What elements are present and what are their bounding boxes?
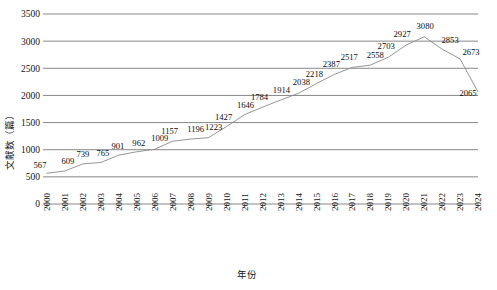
data-point-label: 1196 <box>187 124 205 134</box>
data-point-label: 1914 <box>273 85 291 95</box>
y-axis-tick-label: 2500 <box>21 64 40 74</box>
data-point-label: 609 <box>62 156 75 166</box>
data-point-label: 1784 <box>251 92 269 102</box>
data-point-label: 2517 <box>341 52 359 62</box>
y-axis-title: 文献数（篇） <box>4 110 15 170</box>
y-axis-tick-label: 1500 <box>21 118 40 128</box>
data-point-label: 2927 <box>394 29 412 39</box>
chart-background <box>0 0 497 290</box>
x-axis-tick-label: 2015 <box>312 193 322 212</box>
data-point-label: 1223 <box>205 122 222 132</box>
y-axis-tick-label: 1000 <box>21 145 40 155</box>
x-axis-tick-label: 2011 <box>240 193 250 211</box>
x-axis-tick-label: 2024 <box>473 193 483 212</box>
data-point-label: 2038 <box>293 77 310 87</box>
data-point-label: 2558 <box>367 50 384 60</box>
x-axis-tick-label: 2020 <box>401 193 411 212</box>
x-axis-tick-label: 2022 <box>437 193 447 211</box>
data-point-label: 2065 <box>459 88 476 98</box>
data-point-label: 739 <box>76 149 89 159</box>
x-axis-tick-label: 2006 <box>150 193 160 212</box>
x-axis-tick-label: 2000 <box>42 193 52 212</box>
x-axis-tick-label: 2014 <box>294 193 304 212</box>
x-axis-title: 年份 <box>237 269 257 280</box>
x-axis-tick-label: 2005 <box>132 193 142 212</box>
x-axis-tick-label: 2003 <box>96 193 106 212</box>
x-axis-tick-label: 2008 <box>186 193 196 212</box>
x-axis-tick-label: 2021 <box>419 193 429 211</box>
x-axis-tick-label: 2007 <box>168 193 178 212</box>
x-axis-tick-label: 2010 <box>222 193 232 212</box>
data-point-label: 1427 <box>215 112 233 122</box>
x-axis-tick-label: 2017 <box>347 193 357 212</box>
y-axis-tick-label: 0 <box>35 199 40 209</box>
y-axis-tick-label: 3000 <box>21 37 40 47</box>
y-axis-tick-label: 500 <box>26 172 41 182</box>
x-axis-tick-label: 2001 <box>60 193 70 211</box>
x-axis-tick-label: 2018 <box>365 193 375 212</box>
data-point-label: 765 <box>96 148 109 158</box>
x-axis-tick-label: 2002 <box>78 193 88 211</box>
data-point-label: 962 <box>132 138 145 148</box>
x-axis-tick-label: 2023 <box>455 193 465 212</box>
data-point-label: 567 <box>34 160 48 170</box>
x-axis-tick-label: 2012 <box>258 193 268 211</box>
data-point-label: 2703 <box>378 41 395 51</box>
data-point-label: 901 <box>111 141 124 151</box>
data-point-label: 2387 <box>323 59 341 69</box>
data-point-label: 2218 <box>306 69 323 79</box>
data-point-label: 2673 <box>462 47 479 57</box>
x-axis-tick-label: 2016 <box>330 193 340 212</box>
x-axis-tick-label: 2004 <box>114 193 124 212</box>
data-point-label: 2853 <box>441 35 458 45</box>
y-axis-tick-label: 3500 <box>21 9 40 19</box>
data-point-label: 3080 <box>417 21 434 31</box>
x-axis-tick-label: 2013 <box>276 193 286 212</box>
x-axis-tick-label: 2009 <box>204 193 214 212</box>
line-chart-container: 0500100015002000250030003500 56760973976… <box>0 0 497 290</box>
data-point-label: 1157 <box>161 126 179 136</box>
y-axis-tick-label: 2000 <box>21 91 40 101</box>
x-axis-tick-label: 2019 <box>383 193 393 212</box>
publications-by-year-line-chart: 0500100015002000250030003500 56760973976… <box>0 0 497 290</box>
